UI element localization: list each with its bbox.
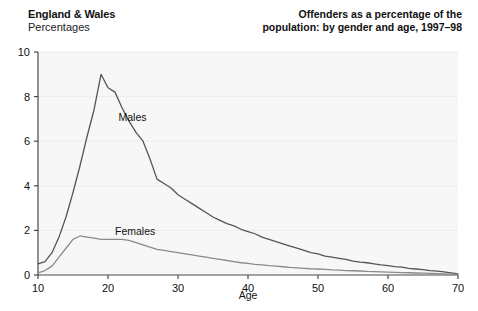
line-chart-svg: 10203040506070 0246810 MalesFemales Age (0, 0, 478, 311)
y-tick-label: 8 (24, 91, 30, 103)
x-tick-label: 10 (32, 282, 44, 294)
x-tick-label: 60 (382, 282, 394, 294)
y-tick-label: 6 (24, 135, 30, 147)
chart-figure: England & Wales Percentages Offenders as… (0, 0, 478, 311)
y-tick-label: 10 (18, 46, 30, 58)
plot-background (38, 52, 458, 275)
plot-area: 10203040506070 0246810 MalesFemales Age (0, 0, 478, 311)
series-label-females: Females (115, 225, 155, 237)
y-tick-label: 4 (24, 180, 30, 192)
y-axis-tick-labels: 0246810 (18, 46, 30, 281)
x-tick-label: 70 (452, 282, 464, 294)
y-tick-label: 0 (24, 269, 30, 281)
x-axis-title: Age (239, 289, 258, 301)
series-label-males: Males (119, 111, 147, 123)
x-tick-label: 20 (102, 282, 114, 294)
x-tick-label: 30 (172, 282, 184, 294)
x-tick-label: 50 (312, 282, 324, 294)
y-tick-label: 2 (24, 224, 30, 236)
